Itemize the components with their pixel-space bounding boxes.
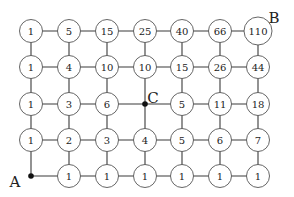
node-value: 1 xyxy=(104,171,110,182)
point-b-label: B xyxy=(268,9,279,27)
node-value: 4 xyxy=(142,135,148,146)
node-value: 10 xyxy=(101,62,114,73)
node-value: 26 xyxy=(214,62,227,73)
node-value: 1 xyxy=(66,171,72,182)
grid-node: 5 xyxy=(171,129,194,152)
node-value: 15 xyxy=(176,62,189,73)
grid-node: 66 xyxy=(209,20,232,43)
node-value: 15 xyxy=(101,26,114,37)
node-value: 11 xyxy=(214,99,227,110)
grid-node: 1 xyxy=(20,20,43,43)
point-a-label: A xyxy=(9,173,21,191)
grid-node: 7 xyxy=(247,129,270,152)
grid-node: 10 xyxy=(96,56,119,79)
node-value: 10 xyxy=(139,62,152,73)
grid-node: 4 xyxy=(134,129,157,152)
grid-node: 4 xyxy=(58,56,81,79)
node-value: 3 xyxy=(66,99,72,110)
grid-node: 1 xyxy=(20,56,43,79)
grid-node: 1 xyxy=(247,165,270,188)
grid-node: 5 xyxy=(171,93,194,116)
grid-node: 1 xyxy=(209,165,232,188)
node-value: 6 xyxy=(217,135,223,146)
node-value: 1 xyxy=(28,99,34,110)
node-value: 4 xyxy=(66,62,72,73)
grid-node: 11 xyxy=(209,93,232,116)
grid-node: 5 xyxy=(58,20,81,43)
node-value: 5 xyxy=(179,135,185,146)
node-value: 1 xyxy=(142,171,148,182)
node-value: 1 xyxy=(217,171,223,182)
node-value: 3 xyxy=(104,135,110,146)
node-value: 1 xyxy=(255,171,261,182)
node-value: 7 xyxy=(255,135,261,146)
grid-node: 1 xyxy=(171,165,194,188)
node-value: 110 xyxy=(248,26,267,37)
node-value: 1 xyxy=(28,135,34,146)
node-value: 1 xyxy=(179,171,185,182)
point-a-dot xyxy=(28,173,34,179)
node-value: 40 xyxy=(176,26,189,37)
point-c-label: C xyxy=(147,89,158,107)
grid-node: 2 xyxy=(58,129,81,152)
node-value: 6 xyxy=(104,99,110,110)
node-value: 5 xyxy=(66,26,72,37)
grid-node: 1 xyxy=(20,93,43,116)
node-value: 66 xyxy=(214,26,227,37)
grid-node: 6 xyxy=(209,129,232,152)
node-value: 25 xyxy=(139,26,152,37)
grid-node: 40 xyxy=(171,20,194,43)
grid-node: 26 xyxy=(209,56,232,79)
grid-node: 44 xyxy=(247,56,270,79)
node-value: 1 xyxy=(28,62,34,73)
grid-node: 1 xyxy=(96,165,119,188)
node-value: 18 xyxy=(252,99,265,110)
grid-node: 3 xyxy=(58,93,81,116)
grid-node: 1 xyxy=(58,165,81,188)
grid-node: 15 xyxy=(96,20,119,43)
node-value: 5 xyxy=(179,99,185,110)
node-value: 1 xyxy=(28,26,34,37)
grid-node: 3 xyxy=(96,129,119,152)
lattice-diagram: 1515254066110141010152644136511181234567… xyxy=(0,0,294,197)
node-value: 44 xyxy=(252,62,265,73)
grid-node: 10 xyxy=(134,56,157,79)
grid-node: 25 xyxy=(134,20,157,43)
grid-node: 6 xyxy=(96,93,119,116)
grid-node: 1 xyxy=(134,165,157,188)
node-value: 2 xyxy=(66,135,72,146)
grid-node: 15 xyxy=(171,56,194,79)
grid-node: 1 xyxy=(20,129,43,152)
grid-node: 18 xyxy=(247,93,270,116)
